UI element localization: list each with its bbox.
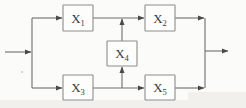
block-x2[interactable]: X2 <box>145 5 175 31</box>
block-x5[interactable]: X5 <box>145 75 175 100</box>
block-x1[interactable]: X1 <box>63 5 93 31</box>
block-x4-sub: 4 <box>125 53 130 63</box>
block-layer: X1 X2 X4 X3 <box>63 5 175 100</box>
block-x2-sub: 2 <box>163 18 167 28</box>
paper-artifacts <box>0 71 246 108</box>
block-x1-sub: 1 <box>81 18 85 28</box>
block-diagram-svg: X1 X2 X4 X3 <box>0 0 246 108</box>
block-diagram-canvas: X1 X2 X4 X3 <box>0 0 246 108</box>
block-x3-sub: 3 <box>81 87 85 97</box>
block-x4[interactable]: X4 <box>107 41 137 66</box>
block-x5-sub: 5 <box>163 87 167 97</box>
block-x3[interactable]: X3 <box>63 75 93 100</box>
